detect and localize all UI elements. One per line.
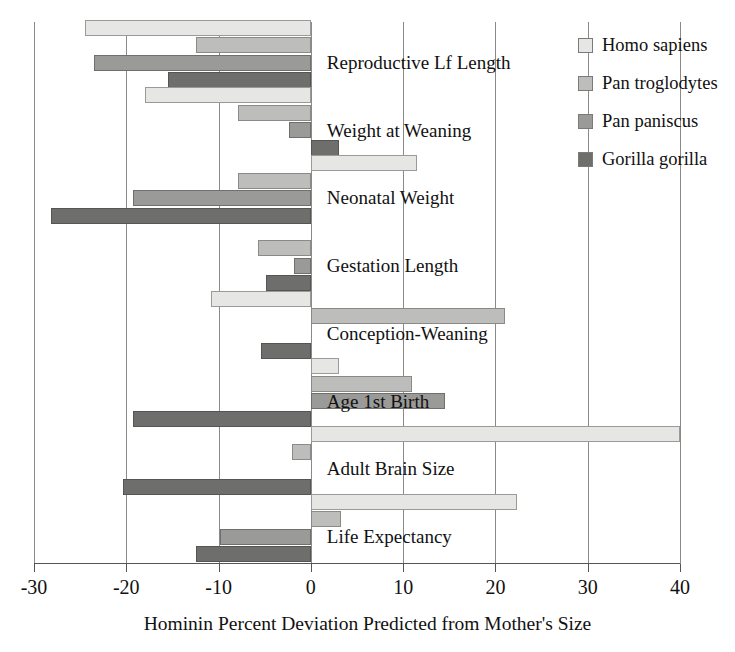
legend-item-label: Gorilla gorilla [602, 149, 707, 170]
x-tick-label: -20 [91, 576, 161, 599]
bar[interactable] [311, 358, 339, 374]
x-axis-title: Hominin Percent Deviation Predicted from… [0, 613, 735, 635]
legend-item[interactable]: Pan troglodytes [578, 64, 718, 102]
bar[interactable] [123, 479, 311, 495]
bar[interactable] [196, 37, 311, 53]
x-tick-label: -30 [0, 576, 69, 599]
bar[interactable] [196, 546, 311, 562]
category-label: Conception-Weaning [327, 323, 488, 345]
legend-item-label: Pan paniscus [602, 111, 698, 132]
category-label: Age 1st Birth [327, 391, 429, 413]
legend: Homo sapiens Pan troglodytes Pan paniscu… [578, 26, 718, 178]
tick-mark [311, 564, 312, 572]
tick-mark [588, 564, 589, 572]
tick-mark [219, 564, 220, 572]
bar[interactable] [238, 105, 311, 121]
legend-item[interactable]: Homo sapiens [578, 26, 718, 64]
bar[interactable] [133, 190, 311, 206]
bar[interactable] [133, 411, 311, 427]
legend-item-label: Homo sapiens [602, 35, 707, 56]
x-tick-label: 30 [553, 576, 623, 599]
bar[interactable] [85, 20, 311, 36]
x-axis-line [34, 563, 680, 564]
bar[interactable] [311, 426, 680, 442]
bar[interactable] [94, 55, 311, 71]
bar[interactable] [311, 140, 339, 156]
bar-chart: Reproductive Lf LengthWeight at WeaningN… [0, 0, 735, 652]
tick-mark [34, 564, 35, 572]
category-label: Weight at Weaning [327, 120, 471, 142]
x-tick-label: 40 [645, 576, 715, 599]
bar[interactable] [220, 529, 310, 545]
x-tick-label: 10 [368, 576, 438, 599]
bar[interactable] [311, 155, 417, 171]
legend-item[interactable]: Pan paniscus [578, 102, 718, 140]
legend-item-label: Pan troglodytes [602, 73, 718, 94]
category-label: Gestation Length [327, 255, 458, 277]
bar[interactable] [311, 494, 517, 510]
tick-mark [495, 564, 496, 572]
legend-swatch-icon [578, 114, 593, 129]
bar[interactable] [311, 376, 413, 392]
bar[interactable] [238, 173, 311, 189]
category-label: Life Expectancy [327, 526, 452, 548]
bar[interactable] [294, 258, 311, 274]
bar[interactable] [168, 72, 311, 88]
legend-swatch-icon [578, 76, 593, 91]
bar[interactable] [145, 87, 311, 103]
tick-mark [126, 564, 127, 572]
legend-swatch-icon [578, 38, 593, 53]
category-label: Reproductive Lf Length [327, 52, 511, 74]
bar[interactable] [51, 208, 311, 224]
bar[interactable] [292, 444, 310, 460]
bar[interactable] [289, 122, 311, 138]
bar[interactable] [311, 511, 341, 527]
category-label: Neonatal Weight [327, 187, 454, 209]
bar[interactable] [211, 291, 311, 307]
category-label: Adult Brain Size [327, 458, 455, 480]
bar[interactable] [311, 308, 505, 324]
bar[interactable] [266, 275, 311, 291]
legend-swatch-icon [578, 152, 593, 167]
x-tick-label: 0 [276, 576, 346, 599]
legend-item[interactable]: Gorilla gorilla [578, 140, 718, 178]
tick-mark [403, 564, 404, 572]
tick-mark [680, 564, 681, 572]
bar[interactable] [261, 343, 311, 359]
x-tick-label: 20 [460, 576, 530, 599]
bar[interactable] [258, 240, 311, 256]
x-tick-label: -10 [184, 576, 254, 599]
